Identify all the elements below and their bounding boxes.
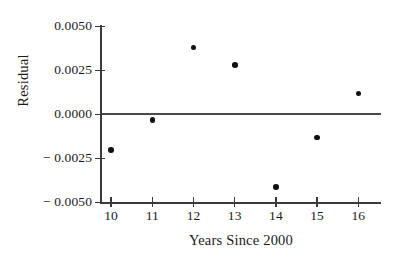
x-tick-label: 14 [256,208,296,224]
zero-reference-line [100,113,381,115]
x-tick [193,197,194,207]
y-tick-label: 0.0025 [2,62,92,78]
x-tick-label: 11 [132,208,172,224]
x-tick [275,197,276,207]
data-point [232,62,238,68]
data-point [108,147,114,153]
x-axis-title: Years Since 2000 [100,232,382,249]
data-point [273,184,279,190]
x-axis-line [100,202,381,204]
data-point [150,117,156,123]
x-tick-label: 13 [215,208,255,224]
x-tick-label: 16 [338,208,378,224]
y-tick-label: 0.0050 [2,18,92,34]
y-tick-label: − 0.0025 [2,150,92,166]
data-point [356,91,362,97]
y-tick [95,158,105,159]
plot-area: 0.00500.00250.0000− 0.0025− 0.0050 10111… [0,0,402,259]
residual-scatter-plot: Residual 0.00500.00250.0000− 0.0025− 0.0… [0,0,402,259]
y-tick [95,70,105,71]
y-tick [95,202,105,203]
x-tick [234,197,235,207]
x-tick-label: 10 [91,208,131,224]
x-tick [152,197,153,207]
y-tick-label: − 0.0050 [2,194,92,210]
y-tick [95,26,105,27]
x-tick-label: 12 [174,208,214,224]
data-point [314,135,320,141]
x-tick [110,197,111,207]
x-tick-label: 15 [297,208,337,224]
x-tick [358,197,359,207]
y-tick-label: 0.0000 [2,106,92,122]
data-point [191,45,197,51]
x-tick [316,197,317,207]
y-tick [95,114,105,115]
